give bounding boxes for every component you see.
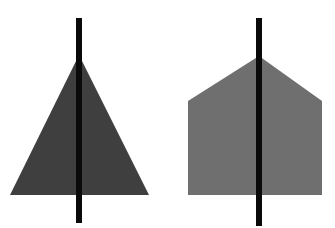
figure-canvas [0, 0, 335, 228]
shapes-figure [0, 0, 335, 228]
